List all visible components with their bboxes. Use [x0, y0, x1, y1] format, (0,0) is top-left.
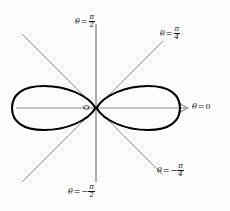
- zero-value: 0: [206, 102, 211, 111]
- minus-symbol: −: [171, 166, 178, 175]
- equals-symbol: =: [80, 17, 89, 26]
- pi-over-four-fraction: π4: [177, 163, 184, 179]
- denominator-two: 2: [89, 22, 96, 29]
- denominator-two: 2: [88, 192, 95, 199]
- equals-symbol: =: [162, 166, 171, 175]
- denominator-four: 4: [174, 34, 181, 41]
- theta-0-label: θ=0: [192, 103, 211, 111]
- theta-pi-2-label: θ=π2: [75, 14, 95, 30]
- equals-symbol: =: [73, 187, 82, 196]
- theta-neg-pi-4-label: θ=−π4: [157, 163, 184, 179]
- theta-pi-4-label: θ=π4: [160, 26, 180, 42]
- equals-symbol: =: [197, 102, 206, 111]
- pi-over-four-fraction: π4: [174, 26, 181, 42]
- denominator-four: 4: [177, 171, 184, 178]
- polar-plot-figure: O θ=π2 θ=π4 θ=0 θ=−π4 θ=−π2: [0, 0, 230, 211]
- equals-symbol: =: [165, 29, 174, 38]
- origin-label: O: [83, 103, 90, 112]
- pi-over-two-fraction: π2: [89, 14, 96, 30]
- minus-symbol: −: [82, 187, 89, 196]
- theta-neg-pi-2-label: θ=−π2: [68, 184, 95, 200]
- pi-over-two-fraction: π2: [88, 184, 95, 200]
